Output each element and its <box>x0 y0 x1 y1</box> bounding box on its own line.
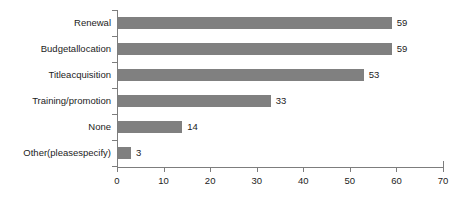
bar <box>118 95 271 107</box>
bar-row: Renewal59 <box>0 10 470 36</box>
x-axis-line <box>117 167 444 168</box>
bar-value-label: 59 <box>397 17 408 29</box>
bar-value-label: 3 <box>136 147 141 159</box>
bar-row: Titleacquisition53 <box>0 62 470 88</box>
x-axis-tick-label: 70 <box>428 175 458 187</box>
x-axis-tick <box>164 168 165 172</box>
category-label: Budgetallocation <box>0 43 111 55</box>
x-axis-tick-label: 20 <box>195 175 225 187</box>
category-label: None <box>0 121 111 133</box>
bar-value-label: 33 <box>276 95 287 107</box>
x-axis-tick <box>350 168 351 172</box>
bar-row: None14 <box>0 114 470 140</box>
x-axis-tick <box>117 168 118 172</box>
bar <box>118 147 131 159</box>
x-axis-tick <box>210 168 211 172</box>
bar <box>118 17 392 29</box>
bar-chart: Renewal59Budgetallocation59Titleacquisit… <box>0 0 470 203</box>
y-axis-tick <box>112 10 117 11</box>
y-axis-tick <box>112 114 117 115</box>
category-label: Renewal <box>0 17 111 29</box>
category-label: Other(pleasespecify) <box>0 147 111 159</box>
bar-row: Budgetallocation59 <box>0 36 470 62</box>
x-axis-tick-label: 60 <box>381 175 411 187</box>
x-axis-tick-label: 10 <box>149 175 179 187</box>
bar-value-label: 53 <box>369 69 380 81</box>
x-axis-tick-label: 30 <box>242 175 272 187</box>
y-axis-tick <box>112 62 117 63</box>
bar <box>118 121 182 133</box>
bar-row: Training/promotion33 <box>0 88 470 114</box>
x-axis-tick <box>257 168 258 172</box>
x-axis-tick-label: 40 <box>288 175 318 187</box>
y-axis-tick <box>112 88 117 89</box>
x-axis-tick <box>396 168 397 172</box>
category-label: Training/promotion <box>0 95 111 107</box>
bar-row: Other(pleasespecify)3 <box>0 140 470 166</box>
x-axis-tick-label: 50 <box>335 175 365 187</box>
category-label: Titleacquisition <box>0 69 111 81</box>
bar <box>118 43 392 55</box>
x-axis-tick <box>443 168 444 172</box>
x-axis-tick <box>303 168 304 172</box>
bar-value-label: 14 <box>187 121 198 133</box>
y-axis-tick <box>112 166 117 167</box>
y-axis-tick <box>112 140 117 141</box>
y-axis-tick <box>112 36 117 37</box>
bar-value-label: 59 <box>397 43 408 55</box>
bar <box>118 69 364 81</box>
x-axis-tick-label: 0 <box>102 175 132 187</box>
